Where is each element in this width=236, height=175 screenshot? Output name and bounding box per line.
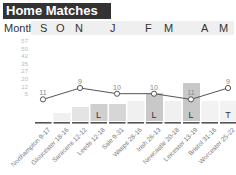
result-bar bbox=[202, 101, 219, 121]
result-letter: L bbox=[188, 110, 193, 120]
result-bar bbox=[109, 104, 126, 121]
data-label: 11 bbox=[187, 89, 194, 96]
data-point bbox=[77, 85, 82, 90]
baseline-segment bbox=[109, 122, 126, 124]
data-label: 9 bbox=[226, 78, 230, 85]
data-point bbox=[225, 85, 230, 90]
baseline-segment bbox=[72, 122, 89, 124]
result-bar bbox=[128, 101, 145, 121]
result-bar bbox=[54, 113, 71, 121]
data-label: 11 bbox=[39, 89, 46, 96]
baseline-segment bbox=[202, 122, 219, 124]
baseline-segment bbox=[91, 122, 108, 124]
result-bar bbox=[72, 107, 89, 121]
baseline-segment bbox=[165, 122, 182, 124]
data-point bbox=[114, 91, 119, 96]
data-point bbox=[151, 91, 156, 96]
baseline-segment bbox=[146, 122, 163, 124]
data-label: 9 bbox=[78, 78, 82, 85]
baseline-segment bbox=[54, 122, 71, 124]
baseline-segment bbox=[35, 122, 52, 124]
data-point bbox=[40, 97, 45, 102]
position-line bbox=[43, 88, 228, 99]
result-bar bbox=[165, 101, 182, 121]
result-letter: L bbox=[151, 110, 156, 120]
result-letter: T bbox=[225, 110, 231, 120]
baseline-segment bbox=[183, 122, 200, 124]
baseline-segment bbox=[220, 122, 236, 124]
baseline-segment bbox=[128, 122, 145, 124]
data-point bbox=[188, 97, 193, 102]
result-letter: L bbox=[96, 110, 101, 120]
data-label: 10 bbox=[113, 84, 121, 91]
data-label: 10 bbox=[150, 84, 158, 91]
